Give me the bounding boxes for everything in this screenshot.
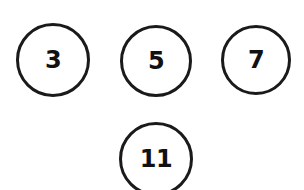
circle-node-7[interactable]: 7 (221, 25, 291, 95)
circle-node-5-label: 5 (148, 49, 164, 73)
circle-node-11-label: 11 (140, 147, 172, 171)
diagram-canvas: 3 5 7 11 (0, 0, 304, 190)
circle-node-7-label: 7 (248, 48, 264, 72)
circle-node-11[interactable]: 11 (119, 122, 193, 190)
circle-node-5[interactable]: 5 (120, 25, 192, 97)
circle-node-3-label: 3 (45, 48, 61, 72)
circle-node-3[interactable]: 3 (16, 23, 90, 97)
